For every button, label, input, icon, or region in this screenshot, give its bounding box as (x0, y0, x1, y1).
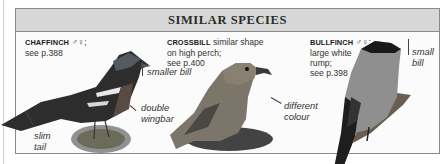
chaffinch-caption: CHAFFINCH ♂♀; see p.388 (25, 37, 87, 58)
crossbill-caption: CROSSBILL similar shape on high perch; s… (167, 37, 264, 68)
label-different-colour: different colour (284, 101, 318, 122)
crossbill-caption-line1: similar shape (213, 37, 264, 47)
chaffinch-illustration (1, 47, 151, 157)
label-tail: tail (34, 141, 46, 152)
panel-header: SIMILAR SPECIES (16, 9, 439, 32)
sex-symbols: ♂♀; (356, 37, 371, 47)
crossbill-name: CROSSBILL (167, 38, 211, 47)
bullfinch-caption-line2: large white (310, 48, 352, 58)
crossbill-caption-line2: on high perch; (167, 48, 221, 58)
crossbill-page-ref: see p.400 (167, 58, 205, 68)
label-slim-tail: slim tail (34, 131, 51, 152)
bullfinch-caption: BULLFINCH ♂♀; large white rump; see p.39… (310, 37, 371, 78)
chaffinch-name: CHAFFINCH (25, 38, 69, 47)
crossbill-illustration (164, 57, 284, 153)
similar-species-panel: SIMILAR SPECIES CHAFFINCH ♂♀; see p.388 … (15, 8, 440, 154)
leader-line (142, 60, 143, 76)
panel-title: SIMILAR SPECIES (168, 13, 287, 27)
label-bill: bill (412, 57, 423, 68)
label-colour: colour (284, 111, 310, 122)
label-small: small (412, 46, 434, 57)
label-slim: slim (34, 130, 51, 141)
chaffinch-page-ref: see p.388 (25, 48, 63, 58)
bullfinch-page-ref: see p.398 (310, 68, 348, 78)
bullfinch-name: BULLFINCH (310, 38, 353, 47)
leader-line (408, 39, 409, 55)
label-different: different (284, 100, 318, 111)
bullfinch-caption-line3: rump; (310, 58, 332, 68)
sex-symbols: ♂♀; (71, 37, 86, 47)
label-small-bill: small bill (412, 47, 434, 68)
